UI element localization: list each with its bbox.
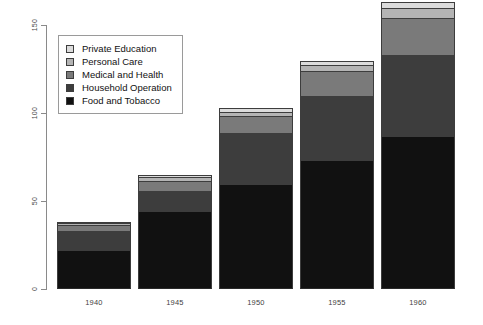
legend-swatch-icon <box>66 97 74 105</box>
bar-segment[interactable] <box>219 133 293 184</box>
y-axis-line <box>46 25 47 289</box>
y-axis-tick <box>41 201 47 202</box>
bar-segment[interactable] <box>138 191 212 211</box>
legend-item[interactable]: Private Education <box>66 42 172 55</box>
bar-segment[interactable] <box>300 160 374 289</box>
legend-swatch-icon <box>66 58 74 66</box>
legend-item-label: Food and Tobacco <box>82 94 160 107</box>
y-axis-tick-label: 100 <box>24 102 38 124</box>
legend-rows: Private EducationPersonal CareMedical an… <box>66 42 172 107</box>
bar-segment[interactable] <box>381 136 455 289</box>
y-axis-tick-label-text: 50 <box>31 197 38 205</box>
bar-segment[interactable] <box>138 211 212 289</box>
x-axis-tick-label: 1950 <box>219 298 293 307</box>
y-axis-tick-label: 50 <box>24 190 38 212</box>
legend-item-label: Private Education <box>82 42 156 55</box>
y-axis-tick <box>41 113 47 114</box>
y-axis-tick-label: 0 <box>24 278 38 300</box>
bar-segment[interactable] <box>138 181 212 191</box>
bar-segment[interactable] <box>300 71 374 96</box>
y-axis-tick-label-text: 0 <box>31 287 38 291</box>
legend-item[interactable]: Personal Care <box>66 55 172 68</box>
legend-swatch-icon <box>66 84 74 92</box>
y-axis-tick-label-text: 150 <box>31 19 38 31</box>
bar-segment[interactable] <box>219 116 293 133</box>
x-axis-tick-label: 1945 <box>138 298 212 307</box>
legend-item-label: Household Operation <box>82 81 172 94</box>
bar-segment[interactable] <box>57 250 131 289</box>
bar-segment[interactable] <box>381 8 455 18</box>
y-axis-tick-label-text: 100 <box>31 107 38 119</box>
x-axis-tick-label: 1955 <box>300 298 374 307</box>
legend-swatch-icon <box>66 45 74 53</box>
y-axis-tick-label: 150 <box>24 14 38 36</box>
y-axis-tick <box>41 25 47 26</box>
bar-1945[interactable] <box>138 175 212 289</box>
legend-swatch-icon <box>66 71 74 79</box>
x-axis-tick-label: 1940 <box>57 298 131 307</box>
bar-segment[interactable] <box>381 55 455 136</box>
y-axis-tick <box>41 289 47 290</box>
legend-item-label: Medical and Health <box>82 68 163 81</box>
x-axis-tick-label: 1960 <box>381 298 455 307</box>
legend-item[interactable]: Medical and Health <box>66 68 172 81</box>
bar-segment[interactable] <box>57 231 131 249</box>
bar-segment[interactable] <box>381 18 455 55</box>
bar-1950[interactable] <box>219 108 293 289</box>
legend-item-label: Personal Care <box>82 55 143 68</box>
bar-1960[interactable] <box>381 2 455 289</box>
bar-1940[interactable] <box>57 222 131 289</box>
legend-item[interactable]: Food and Tobacco <box>66 94 172 107</box>
chart-legend: Private EducationPersonal CareMedical an… <box>58 35 183 114</box>
bar-1955[interactable] <box>300 61 374 289</box>
bar-segment[interactable] <box>300 96 374 160</box>
stacked-bar-chart: 050100150 19401945195019551960 Private E… <box>0 0 483 325</box>
bar-segment[interactable] <box>219 184 293 289</box>
legend-item[interactable]: Household Operation <box>66 81 172 94</box>
